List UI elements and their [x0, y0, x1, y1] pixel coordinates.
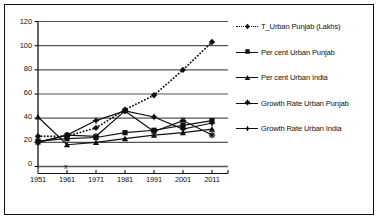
legend-label: Per cent Urban India: [261, 73, 328, 82]
legend-label: Per cent Urban Punjab: [261, 48, 335, 57]
legend-label: Growth Rate Urban India: [261, 124, 342, 133]
cross-marker-icon: [236, 98, 258, 108]
dot-marker-icon: [236, 124, 258, 134]
triangle-marker-icon: [236, 73, 258, 83]
diamond-marker-icon: [236, 22, 258, 32]
square-marker-icon: [236, 47, 258, 57]
legend-item[interactable]: Growth Rate Urban India: [236, 116, 378, 142]
legend-label: Growth Rate Urban Punjab: [261, 99, 349, 108]
chart-legend: T_Urban Punjab (Lakhs) Per cent Urban Pu…: [236, 14, 378, 142]
legend-item[interactable]: T_Urban Punjab (Lakhs): [236, 14, 378, 40]
legend-label: T_Urban Punjab (Lakhs): [261, 22, 340, 31]
legend-item[interactable]: Per cent Urban India: [236, 65, 378, 91]
legend-item[interactable]: Per cent Urban Punjab: [236, 40, 378, 66]
chart-figure: 120 100 80 60 40 20 0 1951 1961 1971 198…: [0, 0, 380, 221]
annotation-x: x: [64, 163, 68, 170]
legend-item[interactable]: Growth Rate Urban Punjab: [236, 91, 378, 117]
